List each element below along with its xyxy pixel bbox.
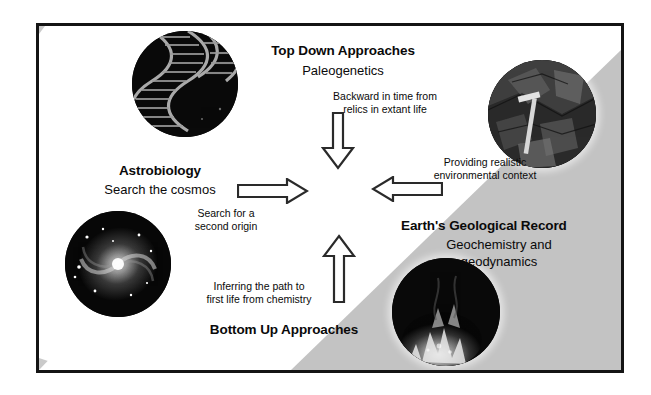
arrow-right — [237, 178, 309, 204]
node-subtitle-right-line1: Geochemistry and — [401, 237, 597, 252]
dna-double-helix-image — [132, 31, 238, 137]
node-subtitle-left: Search the cosmos — [69, 182, 251, 197]
node-title-right: Earth's Geological Record — [401, 218, 567, 234]
figure-frame: Top Down Approaches Paleogenetics Astrob… — [36, 23, 624, 373]
arrow-left — [371, 176, 443, 202]
hydrothermal-vent-image — [392, 258, 500, 366]
node-title-top: Top Down Approaches — [245, 43, 441, 59]
arrow-caption-up-line1: Inferring the path to — [179, 280, 339, 293]
figure-canvas: Top Down Approaches Paleogenetics Astrob… — [0, 0, 651, 395]
rock-outcrop-image — [488, 60, 596, 168]
spiral-galaxy-image — [65, 211, 171, 317]
arrow-caption-down-line1: Backward in time from — [297, 90, 473, 103]
arrow-caption-right-line1: Search for a — [161, 207, 291, 220]
arrow-down — [320, 112, 356, 170]
arrow-caption-left-line1: Providing realistic — [397, 156, 573, 169]
arrow-caption-right-line2: second origin — [161, 220, 291, 233]
node-subtitle-right-line2: geodynamics — [401, 254, 597, 269]
node-title-bottom: Bottom Up Approaches — [179, 322, 389, 338]
node-subtitle-top: Paleogenetics — [245, 63, 441, 78]
arrow-caption-up-line2: first life from chemistry — [179, 293, 339, 306]
node-title-left: Astrobiology — [79, 163, 241, 179]
arrow-up — [321, 234, 357, 304]
